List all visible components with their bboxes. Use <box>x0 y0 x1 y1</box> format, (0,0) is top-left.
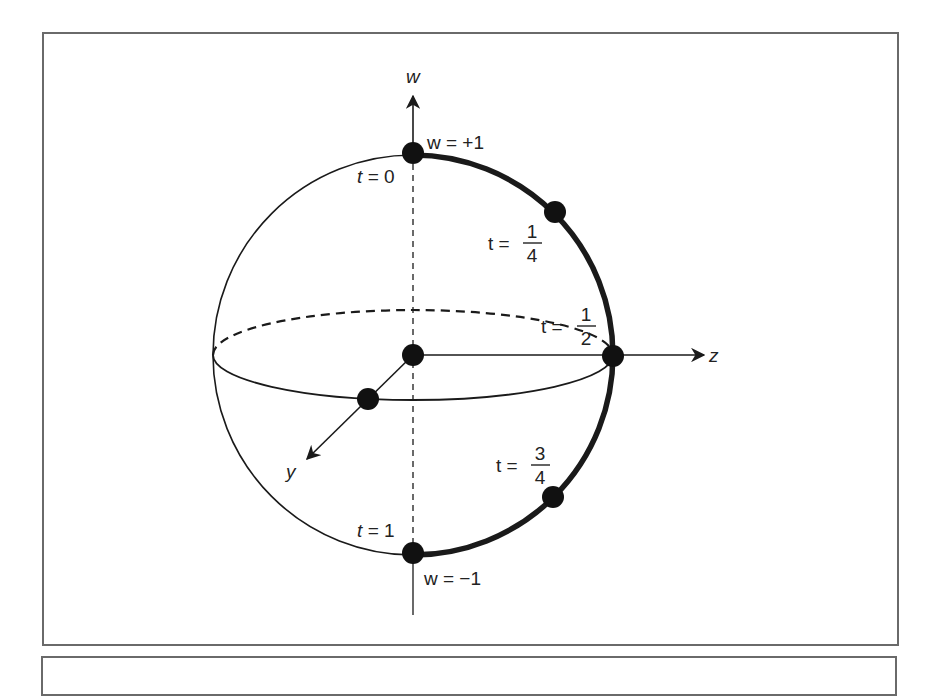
t1-4-numerator: 1 <box>527 221 538 242</box>
top-pole-label: w = +1 <box>426 132 484 153</box>
t0-var: t = <box>357 166 379 187</box>
t0-label: t = 0 <box>357 166 395 187</box>
y-axis <box>307 355 413 459</box>
t3-4-numerator: 3 <box>535 443 546 464</box>
t1-4-denominator: 4 <box>527 245 538 266</box>
point-t0 <box>402 142 424 164</box>
y-axis-label: y <box>284 461 297 482</box>
point-origin <box>402 344 424 366</box>
t3-4-denominator: 4 <box>535 467 546 488</box>
t1-2-denominator: 2 <box>581 328 592 349</box>
bottom-pole-label: w = −1 <box>423 568 481 589</box>
t1-4-label: t = <box>488 233 510 254</box>
point-t3-4 <box>542 486 564 508</box>
t3-4-label: t = <box>496 455 518 476</box>
t1-value: 1 <box>384 520 395 541</box>
point-y-equator <box>357 388 379 410</box>
z-axis-label: z <box>708 345 719 366</box>
point-t1-2 <box>602 345 624 367</box>
t1-2-label: t = <box>541 316 563 337</box>
point-t1 <box>402 542 424 564</box>
t1-var: t = <box>357 520 379 541</box>
t0-value: 0 <box>384 166 395 187</box>
point-t1-4 <box>544 201 566 223</box>
t1-label: t = 1 <box>357 520 395 541</box>
t1-2-numerator: 1 <box>581 304 592 325</box>
w-axis-label: w <box>406 66 421 87</box>
